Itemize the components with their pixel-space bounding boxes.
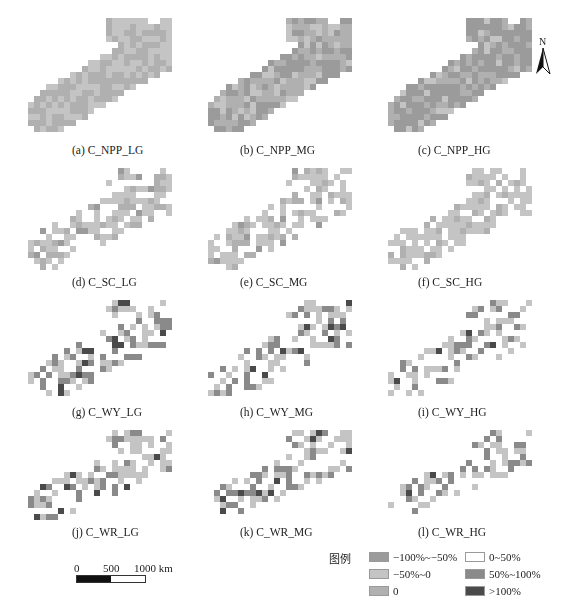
map-panel-e <box>180 150 370 275</box>
caption-k: (k) C_WR_MG <box>240 526 313 538</box>
map-panel-f <box>360 150 550 275</box>
legend-item-gt100: >100% <box>465 584 521 598</box>
legend-item-zero: 0 <box>369 584 399 598</box>
legend-item-0-50: 0~50% <box>465 550 521 564</box>
legend-item-neg50-0: −50%~0 <box>369 567 431 581</box>
map-panel-g <box>0 282 190 406</box>
caption-l: (l) C_WR_HG <box>418 526 486 538</box>
map-panel-j <box>0 412 190 526</box>
legend-item-neg100-neg50: −100%~−50% <box>369 550 457 564</box>
map-panel-b <box>180 0 370 140</box>
scale-bar: 0 500 1000 km <box>76 562 146 583</box>
legend-swatch <box>465 586 485 596</box>
north-label: N <box>539 36 546 47</box>
legend-swatch <box>369 569 389 579</box>
map-panel-k <box>180 412 370 526</box>
legend-title: 图例 <box>329 550 351 566</box>
map-panel-h <box>180 282 370 406</box>
scale-tick-0: 0 <box>74 562 80 574</box>
scale-tick-500: 500 <box>103 562 120 574</box>
legend-swatch <box>369 552 389 562</box>
caption-j: (j) C_WR_LG <box>72 526 139 538</box>
map-panel-a <box>0 0 190 140</box>
map-panel-i <box>360 282 550 406</box>
map-panel-c <box>360 0 550 140</box>
map-panel-l <box>360 412 550 526</box>
scale-bar-graphic <box>76 575 146 583</box>
scale-tick-1000: 1000 km <box>134 562 173 574</box>
legend-swatch <box>465 569 485 579</box>
map-panel-d <box>0 150 190 275</box>
legend-item-50-100: 50%~100% <box>465 567 541 581</box>
north-arrow-icon <box>535 48 551 76</box>
legend-swatch <box>369 586 389 596</box>
legend-swatch <box>465 552 485 562</box>
north-arrow: N <box>535 36 555 76</box>
